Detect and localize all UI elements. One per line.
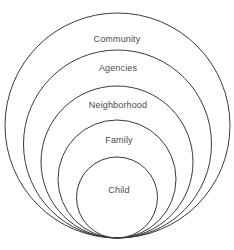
circle-agencies	[24, 50, 212, 238]
circles-canvas	[0, 0, 234, 250]
nested-circles-diagram: Community Agencies Neighborhood Family C…	[0, 0, 234, 250]
circle-neighborhood	[41, 86, 193, 238]
circle-child	[77, 157, 158, 238]
circle-family	[58, 120, 176, 238]
circle-community	[5, 13, 230, 238]
